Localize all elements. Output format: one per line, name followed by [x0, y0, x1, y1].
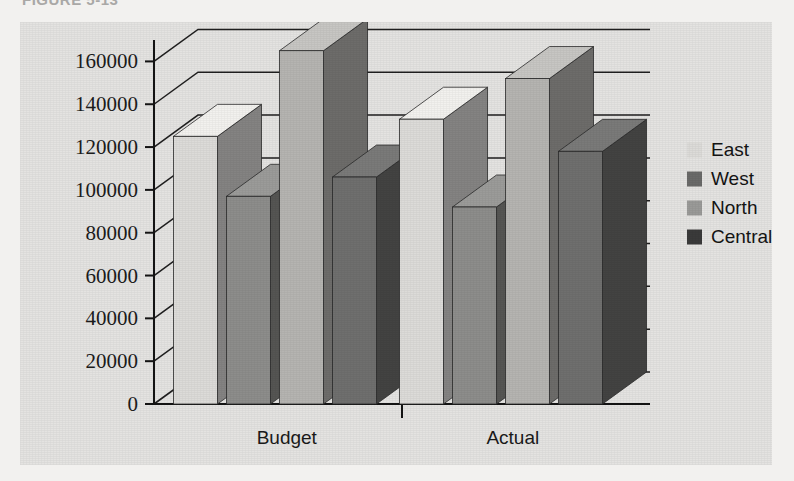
y-axis-tick-label: 60000: [86, 264, 139, 288]
bar-chart-3d: 0200004000060000800001000001200001400001…: [20, 22, 772, 465]
y-axis-tick-label: 140000: [75, 92, 138, 116]
x-axis-category-label: Actual: [486, 427, 539, 448]
x-axis-category-labels: BudgetActual: [257, 427, 540, 448]
y-axis-tick-label: 120000: [75, 135, 138, 159]
legend-swatch-north: [687, 201, 702, 216]
chart-svg: 0200004000060000800001000001200001400001…: [20, 22, 772, 465]
legend-swatch-west: [687, 172, 702, 187]
bar-central-actual: [559, 119, 647, 404]
y-axis-tick-label: 0: [128, 392, 139, 416]
legend-swatch-east: [687, 143, 702, 158]
chart-panel: 0200004000060000800001000001200001400001…: [20, 22, 772, 465]
legend-label-north: North: [711, 197, 757, 218]
legend-swatch-central: [687, 230, 702, 245]
x-axis-category-label: Budget: [257, 427, 318, 448]
y-axis-tick-label: 20000: [86, 349, 139, 373]
figure-caption: FIGURE 5-13: [22, 0, 118, 8]
bars-group: [174, 22, 647, 404]
y-axis-tick-labels: 0200004000060000800001000001200001400001…: [75, 49, 138, 416]
y-axis-tick-label: 80000: [86, 221, 139, 245]
legend-label-west: West: [711, 168, 755, 189]
y-axis-tick-label: 40000: [86, 306, 139, 330]
legend-label-central: Central: [711, 226, 772, 247]
legend-label-east: East: [711, 139, 750, 160]
chart-legend: EastWestNorthCentral: [687, 139, 772, 247]
y-axis-tick-label: 160000: [75, 49, 138, 73]
y-axis-tick-label: 100000: [75, 178, 138, 202]
